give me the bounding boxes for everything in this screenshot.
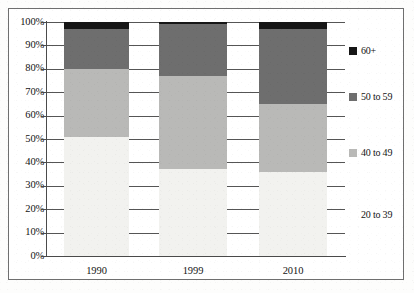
chart-figure: 0%10%20%30%40%50%60%70%80%90%100% 199019…: [0, 0, 414, 293]
bar-segment: [159, 76, 227, 170]
legend-item: 50 to 59: [349, 92, 392, 102]
legend-swatch-icon: [349, 149, 357, 157]
legend-label: 20 to 39: [361, 210, 392, 220]
stacked-bar: [259, 22, 327, 256]
chart-legend: 60+50 to 5940 to 4920 to 39: [349, 22, 403, 256]
y-tick-mark: [41, 209, 47, 210]
y-tick-label: 20%: [4, 204, 44, 215]
y-tick-mark: [41, 116, 47, 117]
legend-item: 40 to 49: [349, 148, 392, 158]
y-tick-label: 50%: [4, 134, 44, 145]
y-tick-label: 90%: [4, 40, 44, 51]
y-tick-label: 30%: [4, 180, 44, 191]
y-tick-mark: [41, 22, 47, 23]
bar-segment: [259, 22, 327, 29]
y-tick-label: 0%: [4, 251, 44, 262]
x-tick-label: 1999: [147, 265, 239, 276]
legend-item: 20 to 39: [349, 210, 392, 220]
stacked-bar: [64, 22, 129, 256]
bar-segment: [259, 172, 327, 256]
y-tick-mark: [41, 69, 47, 70]
bar-segment: [64, 69, 129, 137]
legend-swatch-icon: [349, 47, 357, 55]
y-tick-mark: [41, 45, 47, 46]
bar-segment: [64, 137, 129, 256]
x-tick-label: 1990: [52, 265, 141, 276]
bar-segment: [64, 29, 129, 69]
y-tick-label: 100%: [4, 17, 44, 28]
y-tick-mark: [41, 186, 47, 187]
bar-segment: [259, 104, 327, 172]
y-tick-mark: [41, 139, 47, 140]
legend-item: 60+: [349, 46, 376, 56]
y-tick-label: 10%: [4, 227, 44, 238]
legend-label: 60+: [361, 46, 376, 56]
bar-segment: [159, 24, 227, 75]
legend-label: 40 to 49: [361, 148, 392, 158]
bar-segment: [259, 29, 327, 104]
stacked-bar: [159, 22, 227, 256]
bar-segment: [64, 22, 129, 29]
y-tick-label: 60%: [4, 110, 44, 121]
y-tick-label: 80%: [4, 63, 44, 74]
bar-segment: [159, 169, 227, 256]
plot-area: [47, 22, 345, 256]
y-axis-labels: 0%10%20%30%40%50%60%70%80%90%100%: [0, 0, 44, 293]
legend-label: 50 to 59: [361, 92, 392, 102]
y-tick-mark: [41, 233, 47, 234]
y-tick-label: 70%: [4, 87, 44, 98]
y-tick-mark: [41, 92, 47, 93]
y-tick-mark: [41, 256, 47, 257]
bar-segment: [159, 22, 227, 24]
x-axis-line: [46, 256, 346, 257]
x-tick-label: 2010: [247, 265, 339, 276]
y-tick-label: 40%: [4, 157, 44, 168]
y-tick-mark: [41, 162, 47, 163]
legend-swatch-icon: [349, 93, 357, 101]
